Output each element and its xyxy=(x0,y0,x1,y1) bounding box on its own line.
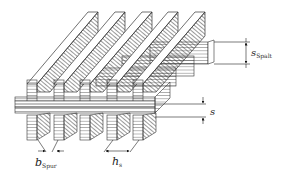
label-s-spalt: sSpalt xyxy=(251,47,273,60)
label-s: s xyxy=(210,106,215,117)
stacked-grid-diagram: sSpalt s bSpur hs xyxy=(0,0,282,174)
dimension-h-s xyxy=(104,140,139,152)
dimension-b-spur xyxy=(38,140,64,152)
label-b-spur: bSpur xyxy=(35,156,57,170)
label-h-s: hs xyxy=(112,155,122,168)
bottom-blocks xyxy=(27,113,156,140)
dimension-s-spalt xyxy=(214,38,250,68)
